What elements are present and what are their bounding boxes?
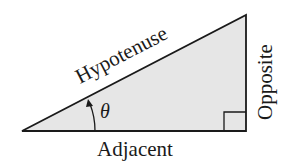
angle-label: θ	[100, 100, 110, 122]
triangle-shape	[22, 15, 246, 131]
triangle-diagram: θ Hypotenuse Opposite Adjacent	[0, 0, 286, 164]
adjacent-label: Adjacent	[97, 137, 173, 161]
opposite-label: Opposite	[253, 44, 277, 120]
